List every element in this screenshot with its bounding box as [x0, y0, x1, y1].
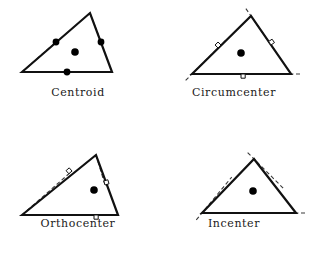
- right-angle-mark-3: [241, 74, 245, 78]
- diagram-incenter: [156, 127, 312, 254]
- caption-orthocenter: Orthocenter: [0, 217, 156, 230]
- cevian-angle-bisector-2: [248, 153, 285, 190]
- diagram-orthocenter: [0, 127, 156, 254]
- triangle-outline: [192, 16, 291, 74]
- caption-incenter: Incenter: [156, 217, 312, 230]
- caption-circumcenter: Circumcenter: [156, 86, 312, 99]
- center-point-orthocenter: [90, 186, 98, 194]
- triangle-centers-figure: CentroidCircumcenterOrthocenterIncenter: [0, 0, 312, 254]
- panel-incenter: Incenter: [156, 127, 312, 254]
- caption-centroid: Centroid: [0, 86, 156, 99]
- diagram-centroid: [0, 0, 156, 127]
- right-angle-mark-1: [66, 168, 72, 174]
- center-point-circumcenter: [237, 49, 245, 57]
- center-point-incenter: [249, 187, 257, 195]
- triangle-outline: [202, 159, 296, 213]
- midpoint-dot-1: [53, 39, 60, 46]
- diagram-circumcenter: [156, 0, 312, 127]
- center-point-centroid: [71, 48, 79, 56]
- midpoint-dot-2: [98, 39, 105, 46]
- triangle-outline: [22, 155, 118, 215]
- panel-circumcenter: Circumcenter: [156, 0, 312, 127]
- panel-centroid: Centroid: [0, 0, 156, 127]
- panel-orthocenter: Orthocenter: [0, 127, 156, 254]
- midpoint-dot-3: [64, 69, 71, 76]
- right-angle-mark-2: [104, 180, 109, 185]
